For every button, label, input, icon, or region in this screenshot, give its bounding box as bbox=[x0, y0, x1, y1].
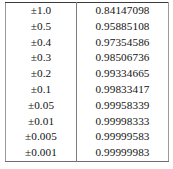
value-cell: 0.84147098 bbox=[77, 3, 169, 19]
tolerance-cell: ±0.005 bbox=[6, 129, 77, 145]
table-row: ±0.0010.99999983 bbox=[6, 145, 169, 161]
table-row: ±0.20.99334665 bbox=[6, 66, 169, 82]
table-body: ±1.00.84147098±0.50.95885108±0.40.973545… bbox=[6, 3, 169, 162]
tolerance-cell: ±1.0 bbox=[6, 3, 77, 19]
tolerance-cell: ±0.5 bbox=[6, 19, 77, 35]
value-cell: 0.99334665 bbox=[77, 66, 169, 82]
table-row: ±1.00.84147098 bbox=[6, 3, 169, 19]
table-row: ±0.050.99958339 bbox=[6, 98, 169, 114]
tolerance-cell: ±0.2 bbox=[6, 66, 77, 82]
value-cell: 0.97354586 bbox=[77, 35, 169, 51]
tolerance-cell: ±0.01 bbox=[6, 114, 77, 130]
value-cell: 0.95885108 bbox=[77, 19, 169, 35]
table-container: ±1.00.84147098±0.50.95885108±0.40.973545… bbox=[5, 2, 168, 162]
table-row: ±0.10.99833417 bbox=[6, 82, 169, 98]
value-cell: 0.99833417 bbox=[77, 82, 169, 98]
value-cell: 0.99958339 bbox=[77, 98, 169, 114]
table-row: ±0.30.98506736 bbox=[6, 50, 169, 66]
tolerance-cell: ±0.001 bbox=[6, 145, 77, 161]
tolerance-cell: ±0.1 bbox=[6, 82, 77, 98]
value-cell: 0.99999983 bbox=[77, 145, 169, 161]
value-cell: 0.99998333 bbox=[77, 114, 169, 130]
tolerance-cell: ±0.4 bbox=[6, 35, 77, 51]
value-cell: 0.98506736 bbox=[77, 50, 169, 66]
table-row: ±0.50.95885108 bbox=[6, 19, 169, 35]
table-row: ±0.010.99998333 bbox=[6, 114, 169, 130]
tolerance-cell: ±0.05 bbox=[6, 98, 77, 114]
tolerance-cell: ±0.3 bbox=[6, 50, 77, 66]
table-row: ±0.40.97354586 bbox=[6, 35, 169, 51]
value-cell: 0.99999583 bbox=[77, 129, 169, 145]
table-row: ±0.0050.99999583 bbox=[6, 129, 169, 145]
tolerance-value-table: ±1.00.84147098±0.50.95885108±0.40.973545… bbox=[5, 2, 169, 162]
